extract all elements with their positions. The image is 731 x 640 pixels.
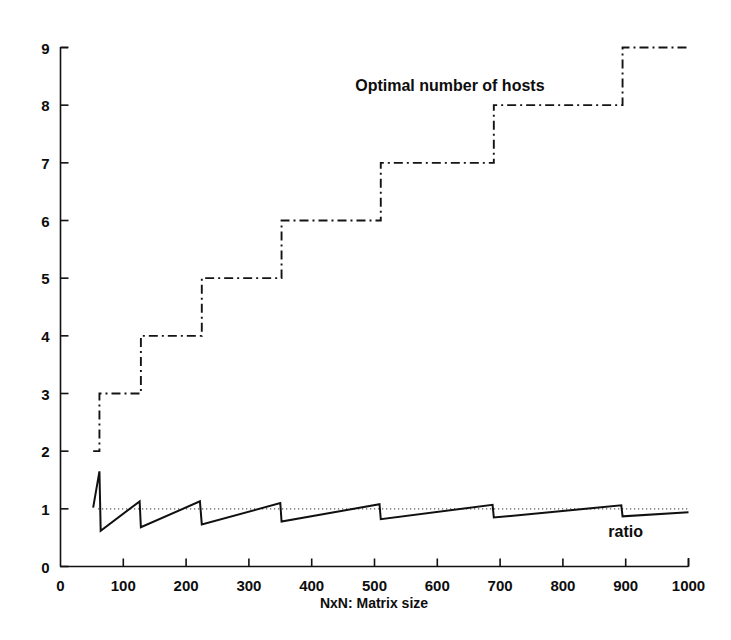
- y-axis-tick-labels: 0123456789: [41, 40, 50, 576]
- annotation-ratio: ratio: [608, 523, 643, 540]
- y-tick-label-8: 8: [41, 97, 49, 114]
- x-axis-ticks: [123, 559, 688, 567]
- chart-figure: 0123456789 01002003004005006007008009001…: [0, 0, 731, 640]
- x-tick-label-100: 100: [111, 577, 136, 594]
- y-tick-label-7: 7: [41, 155, 49, 172]
- y-tick-label-4: 4: [41, 328, 50, 345]
- x-tick-label-900: 900: [613, 577, 638, 594]
- x-tick-label-0: 0: [56, 577, 64, 594]
- x-tick-label-800: 800: [550, 577, 575, 594]
- y-tick-label-1: 1: [41, 501, 49, 518]
- axes-spines: [60, 47, 689, 567]
- y-tick-label-3: 3: [41, 386, 49, 403]
- y-tick-label-9: 9: [41, 40, 49, 57]
- x-tick-label-200: 200: [174, 577, 199, 594]
- x-tick-label-600: 600: [425, 577, 450, 594]
- x-tick-label-400: 400: [299, 577, 324, 594]
- chart-canvas: 0123456789 01002003004005006007008009001…: [0, 0, 731, 640]
- y-tick-label-6: 6: [41, 213, 49, 230]
- y-axis-ticks: [61, 48, 69, 567]
- x-tick-label-500: 500: [362, 577, 387, 594]
- annotation-optimal-number-of-hosts: Optimal number of hosts: [355, 77, 544, 94]
- series-optimal-number-of-hosts: [93, 48, 688, 452]
- x-tick-label-300: 300: [236, 577, 261, 594]
- x-tick-label-700: 700: [488, 577, 513, 594]
- y-tick-label-0: 0: [41, 559, 49, 576]
- series-ratio: [93, 471, 688, 530]
- x-axis-tick-labels: 01002003004005006007008009001000: [56, 577, 705, 594]
- x-axis-title: NxN: Matrix size: [320, 595, 428, 611]
- y-tick-label-2: 2: [41, 443, 49, 460]
- y-tick-label-5: 5: [41, 270, 49, 287]
- x-tick-label-1000: 1000: [672, 577, 705, 594]
